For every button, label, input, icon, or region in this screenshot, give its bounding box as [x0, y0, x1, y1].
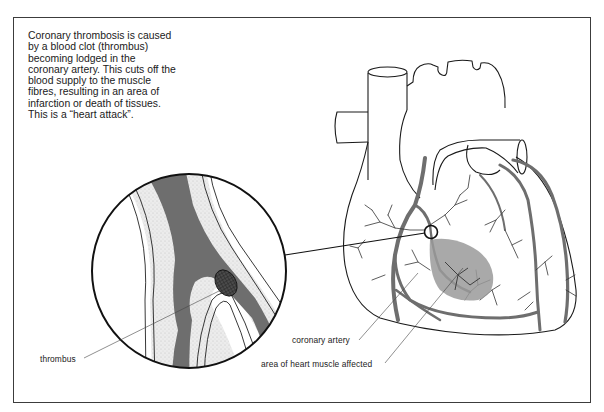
magnifier-leader-line: [285, 233, 425, 255]
magnified-artery: [90, 162, 300, 380]
coronary-arteries: [393, 158, 568, 330]
heart-diagram: [0, 0, 604, 412]
pulmonary-artery-opening: [517, 140, 527, 174]
vena-cava-opening: [368, 67, 407, 77]
label-coronary-artery: coronary artery: [292, 335, 350, 345]
label-thrombus: thrombus: [40, 354, 76, 364]
label-affected-area: area of heart muscle affected: [261, 359, 372, 369]
heart-outline: [344, 142, 577, 335]
coronary-artery-leader: [359, 273, 418, 340]
